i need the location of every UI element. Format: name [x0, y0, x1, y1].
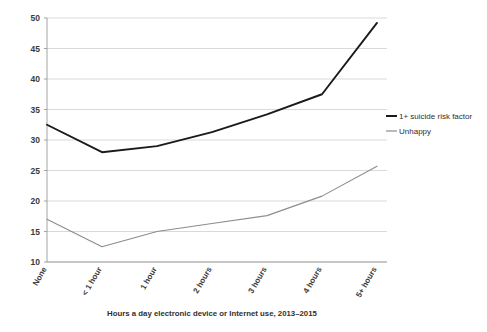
- legend-label: 1+ suicide risk factor: [399, 112, 472, 121]
- line-chart: 101520253035404550 None< 1 hour1 hour2 h…: [0, 0, 487, 332]
- x-axis-category-labels: None< 1 hour1 hour2 hours3 hours4 hours5…: [31, 265, 379, 299]
- y-axis-tick-labels: 101520253035404550: [31, 13, 47, 267]
- legend-label: Unhappy: [399, 127, 431, 136]
- x-category-label: None: [31, 265, 49, 287]
- y-tick-label: 30: [31, 135, 41, 145]
- x-category-label: 4 hours: [301, 265, 324, 295]
- y-tick-label: 25: [31, 166, 41, 176]
- series-line-suicide-risk: [47, 23, 377, 152]
- data-series: [47, 23, 377, 247]
- chart-legend: 1+ suicide risk factorUnhappy: [386, 112, 472, 136]
- x-category-label: 2 hours: [191, 265, 214, 295]
- y-tick-label: 20: [31, 196, 41, 206]
- series-line-unhappy: [47, 166, 377, 247]
- y-tick-label: 45: [31, 44, 41, 54]
- x-category-label: 5+ hours: [354, 265, 379, 299]
- x-category-label: 1 hour: [139, 266, 159, 292]
- x-category-label: 3 hours: [246, 265, 269, 295]
- y-tick-label: 35: [31, 105, 41, 115]
- chart-container: 101520253035404550 None< 1 hour1 hour2 h…: [0, 0, 487, 332]
- x-category-label: < 1 hour: [80, 266, 103, 298]
- y-tick-label: 10: [31, 257, 41, 267]
- y-tick-label: 40: [31, 74, 41, 84]
- y-tick-label: 15: [31, 227, 41, 237]
- gridlines: [47, 18, 387, 262]
- x-axis-title: Hours a day electronic device or Interne…: [107, 309, 317, 318]
- x-axis-title-text: Hours a day electronic device or Interne…: [107, 309, 317, 318]
- y-tick-label: 50: [31, 13, 41, 23]
